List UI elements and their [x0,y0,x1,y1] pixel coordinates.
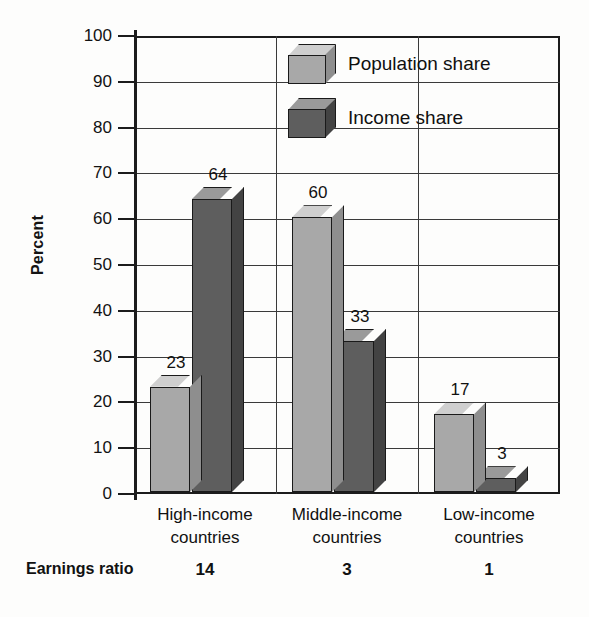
earnings-ratio-row: Earnings ratio 1431 [0,560,589,592]
y-tick-mark-40 [118,310,134,312]
y-tick-label-30: 30 [58,347,112,367]
y-tick-mark-0 [118,493,134,495]
y-tick-mark-60 [118,218,134,220]
bar-value-label-income-1: 64 [196,165,240,185]
legend-label-population-share: Population share [348,53,491,75]
y-axis-line [134,30,137,500]
y-tick-label-90: 90 [58,72,112,92]
gridline-x-1 [276,36,277,494]
bar-population-share-2 [292,217,332,492]
y-tick-mark-70 [118,172,134,174]
legend-item-income-share: Income share [288,98,463,138]
bar-value-label-income-2: 33 [338,307,382,327]
frame-bottom-border [134,492,560,494]
y-tick-mark-100 [118,35,134,37]
earnings-ratio-value-2: 3 [276,560,418,580]
y-tick-mark-80 [118,127,134,129]
y-tick-mark-30 [118,356,134,358]
y-tick-label-50: 50 [58,255,112,275]
y-axis-title: Percent [29,185,47,305]
y-tick-mark-20 [118,401,134,403]
y-tick-label-40: 40 [58,301,112,321]
bar-value-label-population-3: 17 [438,380,482,400]
dark-cube-icon [288,98,336,138]
y-tick-label-0: 0 [58,484,112,504]
y-tick-mark-90 [118,81,134,83]
earnings-ratio-value-3: 1 [418,560,560,580]
frame-top-border [134,36,560,38]
y-tick-label-10: 10 [58,438,112,458]
y-tick-label-80: 80 [58,118,112,138]
legend-item-population-share: Population share [288,44,491,84]
y-tick-label-100: 100 [58,26,112,46]
x-axis-category-labels: High-incomecountriesMiddle-incomecountri… [134,503,560,555]
y-axis-tick-labels: 1009080706050403020100 [58,36,112,494]
x-category-label-1: High-incomecountries [134,503,276,549]
y-tick-label-20: 20 [58,392,112,412]
y-tick-label-60: 60 [58,209,112,229]
legend-label-income-share: Income share [348,107,463,129]
bar-value-label-income-3: 3 [480,444,524,464]
x-category-label-3: Low-incomecountries [418,503,560,549]
chart-canvas: Percent 1009080706050403020100 236460331… [0,0,589,617]
y-tick-label-70: 70 [58,163,112,183]
x-category-label-2: Middle-incomecountries [276,503,418,549]
earnings-ratio-value-1: 14 [134,560,276,580]
y-tick-mark-10 [118,447,134,449]
y-tick-mark-50 [118,264,134,266]
earnings-ratio-label: Earnings ratio [26,560,134,578]
bar-population-share-3 [434,414,474,492]
bar-population-share-1 [150,387,190,492]
light-cube-icon [288,44,336,84]
bar-value-label-population-2: 60 [296,183,340,203]
